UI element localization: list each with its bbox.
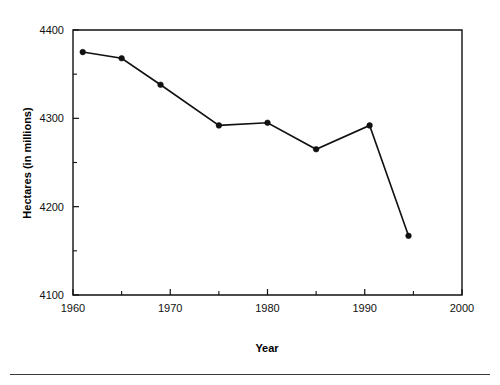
x-tick-label: 1980 bbox=[255, 302, 279, 314]
data-point bbox=[367, 123, 373, 129]
x-tick-label: 1990 bbox=[353, 302, 377, 314]
y-tick-label: 4200 bbox=[40, 201, 64, 213]
x-axis-title: Year bbox=[255, 342, 279, 354]
x-tick-label: 2000 bbox=[450, 302, 474, 314]
line-chart: 19601970198019902000 4100420043004400 Ye… bbox=[0, 0, 500, 385]
plot-frame bbox=[73, 30, 462, 295]
y-axis-title: Hectares (in millions) bbox=[21, 107, 33, 219]
data-point bbox=[216, 123, 222, 129]
chart-figure: 19601970198019902000 4100420043004400 Ye… bbox=[0, 0, 500, 385]
x-axis-ticks bbox=[73, 289, 462, 295]
data-point bbox=[313, 146, 319, 152]
data-point bbox=[158, 82, 164, 88]
data-point bbox=[80, 49, 86, 55]
x-tick-label: 1970 bbox=[158, 302, 182, 314]
y-tick-label: 4400 bbox=[40, 24, 64, 36]
y-tick-label: 4100 bbox=[40, 289, 64, 301]
data-series-hectares bbox=[80, 49, 411, 238]
data-point bbox=[265, 120, 271, 126]
x-axis-tick-labels: 19601970198019902000 bbox=[61, 302, 474, 314]
y-tick-label: 4300 bbox=[40, 112, 64, 124]
y-axis-ticks bbox=[73, 30, 79, 295]
data-point bbox=[406, 233, 412, 239]
data-point bbox=[119, 55, 125, 61]
y-axis-tick-labels: 4100420043004400 bbox=[40, 24, 64, 301]
series-line-0 bbox=[83, 52, 409, 236]
footer-divider bbox=[10, 374, 490, 375]
x-tick-label: 1960 bbox=[61, 302, 85, 314]
